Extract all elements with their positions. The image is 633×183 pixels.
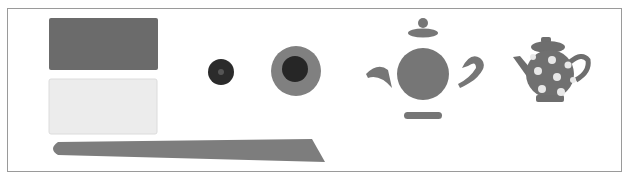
lid <box>408 29 438 38</box>
teapot-body <box>397 48 449 100</box>
finished-polka-dot-teapot <box>513 37 588 102</box>
clay-teapot-illustration <box>0 0 633 183</box>
clay-modeling-tool <box>53 139 325 162</box>
handle-piece <box>458 56 484 88</box>
light-clay-block <box>49 79 157 134</box>
base-piece <box>404 112 442 119</box>
small-black-clay-ball <box>208 59 234 85</box>
spout-piece <box>366 67 392 88</box>
lid-knob <box>418 18 428 28</box>
teapot-parts <box>366 18 484 119</box>
flattened-clay-disc <box>271 46 321 96</box>
dark-clay-block <box>49 18 158 70</box>
